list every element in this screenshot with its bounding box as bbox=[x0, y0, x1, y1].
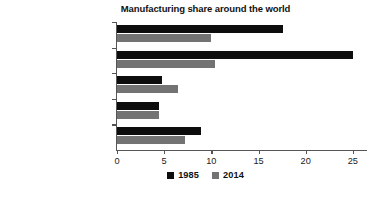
bar-2014 bbox=[117, 85, 178, 93]
x-axis-tick bbox=[306, 150, 307, 154]
bar-2014 bbox=[117, 136, 185, 144]
bar-group: Former Soviet sphere bbox=[117, 48, 367, 74]
bar-group: 'Old' OECD countries bbox=[117, 22, 367, 48]
bar-2014 bbox=[117, 34, 211, 42]
legend-label: 1985 bbox=[178, 170, 199, 180]
legend-swatch-icon bbox=[212, 172, 219, 179]
bar-1985 bbox=[117, 102, 159, 110]
x-axis-tick bbox=[211, 150, 212, 154]
bar-1985 bbox=[117, 25, 283, 33]
chart-title: Manufacturing share around the world bbox=[0, 3, 387, 14]
x-axis-tick-label: 10 bbox=[206, 156, 216, 166]
x-axis-tick-label: 20 bbox=[301, 156, 311, 166]
x-axis-tick bbox=[259, 150, 260, 154]
bar-group: Developing countries bbox=[117, 73, 367, 99]
bar-group: Developing w/o China bbox=[117, 99, 367, 125]
bar-2014 bbox=[117, 60, 215, 68]
bar-1985 bbox=[117, 76, 162, 84]
bar-1985 bbox=[117, 127, 201, 135]
chart-legend: 19852014 bbox=[0, 170, 387, 180]
bar-1985 bbox=[117, 51, 353, 59]
x-axis-tick bbox=[164, 150, 165, 154]
bar-group: World total bbox=[117, 124, 367, 150]
x-axis-tick-label: 25 bbox=[348, 156, 358, 166]
plot-area: 'Old' OECD countriesFormer Soviet sphere… bbox=[117, 22, 367, 150]
x-axis-tick bbox=[117, 150, 118, 154]
x-axis-tick-label: 5 bbox=[162, 156, 167, 166]
legend-item-2014[interactable]: 2014 bbox=[212, 170, 244, 180]
legend-swatch-icon bbox=[167, 172, 174, 179]
y-axis-tick bbox=[112, 22, 117, 23]
legend-label: 2014 bbox=[223, 170, 244, 180]
x-axis-tick-label: 15 bbox=[253, 156, 263, 166]
y-axis-tick bbox=[112, 99, 117, 100]
legend-item-1985[interactable]: 1985 bbox=[167, 170, 199, 180]
x-axis-tick-label: 0 bbox=[114, 156, 119, 166]
y-axis-tick bbox=[112, 48, 117, 49]
x-axis-tick bbox=[353, 150, 354, 154]
y-axis-tick bbox=[112, 124, 117, 125]
x-axis-line bbox=[116, 150, 367, 151]
bar-2014 bbox=[117, 111, 159, 119]
bar-chart: Manufacturing share around the world 'Ol… bbox=[0, 0, 387, 198]
y-axis-tick bbox=[112, 73, 117, 74]
